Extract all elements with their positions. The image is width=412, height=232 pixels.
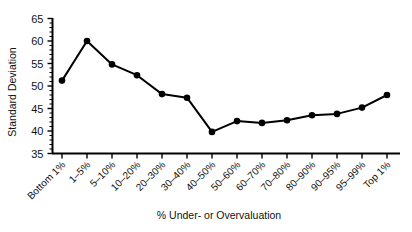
y-tick-label: 40 <box>31 125 43 137</box>
data-point-marker <box>209 129 216 136</box>
y-axis-group: 65605550454035 Standard Deviation <box>6 13 53 160</box>
series-group <box>59 38 391 136</box>
series-markers <box>59 38 391 136</box>
data-point-marker <box>234 118 241 125</box>
y-tick-labels: 65605550454035 <box>31 13 43 160</box>
data-point-marker <box>109 61 116 68</box>
data-point-marker <box>159 91 166 98</box>
y-tick-label: 35 <box>31 148 43 160</box>
data-point-marker <box>59 77 66 84</box>
y-axis-title: Standard Deviation <box>6 47 18 136</box>
x-tick-label: Top 1% <box>361 159 392 190</box>
data-point-marker <box>284 117 291 124</box>
line-chart: 65605550454035 Standard Deviation Bottom… <box>0 0 412 232</box>
data-point-marker <box>184 94 191 101</box>
y-tick-label: 65 <box>31 13 43 25</box>
x-tick-labels: Bottom 1%1–5%5–10%10–20%20–30%30–40%40–5… <box>25 159 392 201</box>
y-tick-label: 60 <box>31 35 43 47</box>
data-point-marker <box>309 112 316 119</box>
data-point-marker <box>84 38 91 45</box>
x-tick-label: Bottom 1% <box>25 159 67 201</box>
series-line-standard-deviation <box>62 41 387 132</box>
data-point-marker <box>134 72 141 79</box>
data-point-marker <box>334 111 341 118</box>
y-tick-label: 50 <box>31 80 43 92</box>
x-axis-group: Bottom 1%1–5%5–10%10–20%20–30%30–40%40–5… <box>25 154 400 222</box>
y-tick-label: 55 <box>31 58 43 70</box>
data-point-marker <box>384 92 391 99</box>
x-axis-title: % Under- or Overvaluation <box>157 209 281 221</box>
data-point-marker <box>259 120 266 127</box>
data-point-marker <box>359 104 366 111</box>
y-tick-label: 45 <box>31 103 43 115</box>
chart-canvas: 65605550454035 Standard Deviation Bottom… <box>0 0 412 232</box>
